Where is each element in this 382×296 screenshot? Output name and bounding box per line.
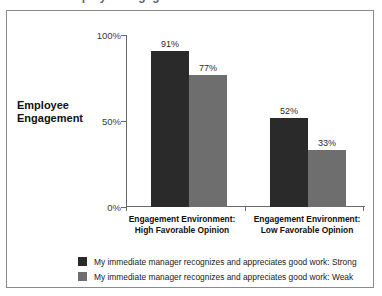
cropped-title-remnant: Employee Engagement xyxy=(0,0,382,9)
y-tick-label-100: 100% xyxy=(97,30,121,41)
bar-value-low-strong: 52% xyxy=(280,106,298,116)
x-axis-tick-middle xyxy=(245,207,246,211)
axis-title-line-1: Employee xyxy=(17,99,103,112)
y-tick-mark-50 xyxy=(121,121,126,122)
plot-area: 100% 50% 0% 91% 77% 52% 33% Engagement E xyxy=(126,35,364,207)
category-label-high-line-1: Engagement Environment: xyxy=(120,214,244,225)
bar-value-high-weak: 77% xyxy=(199,63,217,73)
x-axis-tick-left xyxy=(126,207,127,211)
bar-value-low-weak: 33% xyxy=(318,138,336,148)
chart-axis-title: Employee Engagement xyxy=(17,99,103,125)
y-axis-line xyxy=(126,35,127,207)
bar-value-high-strong: 91% xyxy=(161,39,179,49)
chart-frame: Employee Engagement 100% 50% 0% 91% 77% xyxy=(6,10,374,288)
legend-swatch-strong xyxy=(78,257,87,266)
cropped-title-text: Employee Engagement xyxy=(63,0,195,3)
y-tick-mark-100 xyxy=(121,35,126,36)
axis-title-line-2: Engagement xyxy=(17,112,103,125)
bar-high-strong[interactable]: 91% xyxy=(151,51,189,208)
x-axis-tick-right xyxy=(363,207,364,211)
bar-low-strong[interactable]: 52% xyxy=(270,118,308,207)
y-tick-label-50: 50% xyxy=(102,116,121,127)
category-label-low-line-2: Low Favorable Opinion xyxy=(245,225,369,236)
legend-label-strong: My immediate manager recognizes and appr… xyxy=(94,257,357,267)
legend-item-strong[interactable]: My immediate manager recognizes and appr… xyxy=(78,254,378,269)
bar-low-weak[interactable]: 33% xyxy=(308,150,346,207)
legend-label-weak: My immediate manager recognizes and appr… xyxy=(94,272,353,282)
legend-item-weak[interactable]: My immediate manager recognizes and appr… xyxy=(78,269,378,284)
legend-swatch-weak xyxy=(78,272,87,281)
chart-legend: My immediate manager recognizes and appr… xyxy=(78,254,378,284)
y-tick-label-0: 0% xyxy=(107,202,121,213)
category-label-high-favorable: Engagement Environment: High Favorable O… xyxy=(120,214,244,236)
bar-high-weak[interactable]: 77% xyxy=(189,75,227,207)
category-label-low-favorable: Engagement Environment: Low Favorable Op… xyxy=(245,214,369,236)
category-label-high-line-2: High Favorable Opinion xyxy=(120,225,244,236)
category-label-low-line-1: Engagement Environment: xyxy=(245,214,369,225)
